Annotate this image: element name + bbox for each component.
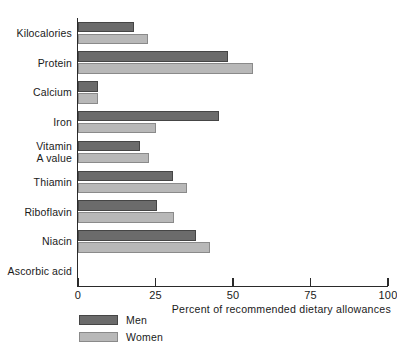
bar-men — [78, 51, 228, 62]
category-label: Niacin — [0, 235, 72, 247]
bar-women — [78, 153, 149, 164]
bar-women — [78, 242, 210, 253]
category-label: Riboflavin — [0, 206, 72, 218]
category-label: Kilocalories — [0, 27, 72, 39]
bar-women — [78, 63, 253, 74]
category-label: Vitamin A value — [0, 140, 72, 165]
bar-women — [78, 183, 187, 194]
bar-group — [78, 18, 388, 48]
x-axis-tick-mark — [77, 278, 78, 286]
legend-swatch-men — [79, 315, 118, 325]
legend-label: Men — [126, 314, 147, 326]
bar-men — [78, 171, 173, 182]
bar-men — [78, 22, 134, 33]
bar-group — [78, 48, 388, 78]
x-axis-tick-mark — [155, 278, 156, 286]
category-label: Calcium — [0, 86, 72, 98]
bar-group — [78, 107, 388, 137]
bar-men — [78, 111, 219, 122]
legend-item-women: Women — [79, 328, 163, 345]
x-axis-tick-mark — [387, 278, 388, 286]
bar-men — [78, 200, 157, 211]
x-axis-tick-label: 50 — [227, 289, 240, 301]
bar-men — [78, 230, 196, 241]
x-axis-tick-mark — [232, 278, 233, 286]
x-axis-tick-label: 75 — [304, 289, 317, 301]
horizontal-bar-chart: KilocaloriesProteinCalciumIronVitamin A … — [0, 0, 397, 353]
category-label: Protein — [0, 57, 72, 69]
bar-group — [78, 78, 388, 108]
bar-group — [78, 197, 388, 227]
x-axis-title: Percent of recommended dietary allowance… — [0, 303, 391, 315]
bar-group — [78, 137, 388, 167]
bar-women — [78, 93, 98, 104]
bar-group — [78, 167, 388, 197]
legend-swatch-women — [79, 332, 118, 342]
plot-area — [78, 18, 388, 286]
x-axis-tick-label: 0 — [75, 289, 81, 301]
category-label: Ascorbic acid — [0, 265, 72, 277]
chart-legend: MenWomen — [79, 311, 163, 345]
bar-men — [78, 81, 98, 92]
x-axis-tick-mark — [310, 278, 311, 286]
bar-group — [78, 227, 388, 257]
bar-women — [78, 212, 174, 223]
x-axis-tick-label: 25 — [149, 289, 162, 301]
bar-women — [78, 34, 148, 45]
bar-men — [78, 141, 140, 152]
bar-women — [78, 123, 156, 134]
category-label: Iron — [0, 116, 72, 128]
category-label: Thiamin — [0, 176, 72, 188]
x-axis-tick-label: 100 — [379, 289, 397, 301]
legend-label: Women — [126, 331, 163, 343]
legend-item-men: Men — [79, 311, 163, 328]
